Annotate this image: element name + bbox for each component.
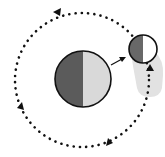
pointer-arrow-icon <box>111 57 126 65</box>
small-body <box>129 35 157 63</box>
orbit-diagram <box>0 0 165 157</box>
large-body <box>55 51 111 107</box>
orbit-diagram-canvas <box>0 0 165 157</box>
orbit-arrow-top-icon <box>53 8 61 16</box>
orbit-arrow-bottom-icon <box>106 138 113 146</box>
orbit-arrow-left-icon <box>17 102 24 110</box>
